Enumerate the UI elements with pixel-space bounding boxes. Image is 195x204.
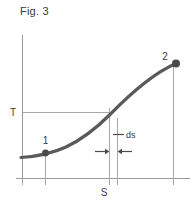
state-1-label: 1 — [43, 135, 49, 146]
ds-increment-arrows — [95, 149, 132, 154]
ds-increment-label: ds — [126, 130, 136, 140]
ds-right-arrow-head — [118, 149, 123, 154]
y-axis-label: T — [10, 107, 16, 118]
figure-container: Fig. 3 — [0, 0, 195, 204]
state-2-marker — [172, 60, 180, 68]
state-2-label: 2 — [162, 51, 168, 62]
ds-left-arrow-head — [105, 149, 110, 154]
x-axis-tick-group — [23, 179, 174, 186]
state-1-marker — [42, 150, 49, 157]
ts-diagram-plot: T S 1 2 ds — [0, 0, 195, 204]
x-axis-label: S — [101, 187, 108, 198]
